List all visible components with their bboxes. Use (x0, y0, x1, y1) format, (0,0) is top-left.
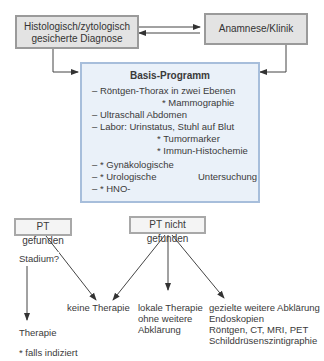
therapie-label: Therapie (19, 327, 57, 339)
diagnosis-line-2: gesicherte Diagnose (17, 33, 137, 45)
footnote: * falls indiziert (19, 347, 78, 359)
gezielte-line-3: Röntgen, CT, MRI, PET (209, 324, 308, 336)
basis-line: Untersuchung (198, 171, 257, 183)
basis-program-box: Basis-Programm – Röntgen-Thorax in zwei … (80, 62, 260, 203)
pt-found-box: PT gefunden (14, 218, 72, 236)
anamnese-label: Anamnese/Klinik (219, 23, 293, 34)
gezielte-line-1: gezielte weitere Abklärung (209, 302, 320, 314)
basis-line: * Tumormarker (157, 133, 220, 145)
basis-title: Basis-Programm (82, 70, 258, 82)
lokale-line-2: ohne weitere (138, 313, 192, 325)
lokale-line-1: lokale Therapie (138, 302, 203, 314)
stadium-label: Stadium? (19, 252, 59, 266)
lokale-line-3: Abklärung (138, 324, 181, 336)
basis-line: * Immun-Histochemie (157, 145, 248, 157)
diagnosis-box: Histologisch/zytologisch gesicherte Diag… (15, 15, 139, 49)
basis-line: – * HNO- (92, 183, 131, 195)
basis-line: – Ultraschall Abdomen (92, 109, 187, 121)
pt-not-found-label: PT nicht gefunden (147, 219, 189, 244)
basis-line: – * Gynäkologische (92, 159, 174, 171)
pt-not-found-box: PT nicht gefunden (129, 216, 206, 234)
gezielte-line-4: Schilddrüsenszintigraphie (209, 335, 317, 347)
anamnese-box: Anamnese/Klinik (204, 13, 308, 45)
gezielte-line-2: Endoskopien (209, 313, 264, 325)
diagnosis-line-1: Histologisch/zytologisch (17, 21, 137, 33)
basis-line: * Mammographie (162, 97, 234, 109)
basis-line: – Labor: Urinstatus, Stuhl auf Blut (92, 121, 234, 133)
basis-line: – Röntgen-Thorax in zwei Ebenen (92, 85, 236, 97)
keine-therapie-label: keine Therapie (67, 302, 130, 314)
pt-found-label: PT gefunden (22, 221, 64, 246)
basis-line: – * Urologische (92, 171, 156, 183)
